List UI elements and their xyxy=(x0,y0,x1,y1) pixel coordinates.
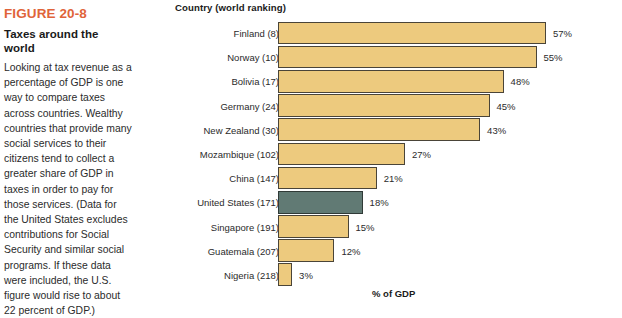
bar-row: Guatemala (207)12% xyxy=(140,239,622,263)
bar xyxy=(278,263,292,286)
x-axis-title: % of GDP xyxy=(372,288,415,299)
bar xyxy=(278,22,546,45)
bar xyxy=(278,167,377,190)
bar-category-label: Bolivia (17) xyxy=(231,76,279,87)
bar-category-label: China (147) xyxy=(229,173,279,184)
bar-row: Germany (24)45% xyxy=(140,94,622,118)
bar-category-label: Norway (10) xyxy=(227,52,279,63)
bar-value-label: 12% xyxy=(341,245,360,256)
bar-value-label: 55% xyxy=(544,52,563,63)
bar xyxy=(278,143,405,166)
bar-category-label: Singapore (191) xyxy=(211,221,279,232)
bar-row: Finland (8)57% xyxy=(140,21,622,45)
bar-row: Norway (10)55% xyxy=(140,45,622,69)
y-axis-title: Country (world ranking) xyxy=(175,2,286,13)
bar-row: Mozambique (102)27% xyxy=(140,142,622,166)
bar xyxy=(278,118,480,141)
bar-value-label: 45% xyxy=(497,100,516,111)
bar-category-label: Guatemala (207) xyxy=(208,245,279,256)
bar-category-label: Finland (8) xyxy=(234,28,279,39)
bar-category-label: United States (171) xyxy=(197,197,279,208)
bar-value-label: 43% xyxy=(487,124,506,135)
bar-value-label: 15% xyxy=(356,221,375,232)
bar xyxy=(278,70,504,93)
bar-chart: Country (world ranking) Finland (8)57%No… xyxy=(140,0,622,301)
figure-title: Taxes around the world xyxy=(4,27,132,55)
bar-category-label: Germany (24) xyxy=(220,100,279,111)
bar-value-label: 27% xyxy=(412,149,431,160)
bar xyxy=(278,239,334,262)
bar xyxy=(278,94,490,117)
bar xyxy=(278,191,363,214)
bar xyxy=(278,46,537,69)
bar-row: New Zealand (30)43% xyxy=(140,118,622,142)
figure-number: FIGURE 20-8 xyxy=(4,6,132,22)
bar xyxy=(278,215,349,238)
bar-category-label: Nigeria (218) xyxy=(224,269,279,280)
chart-plot-area: Finland (8)57%Norway (10)55%Bolivia (17)… xyxy=(140,21,622,289)
figure-caption-column: FIGURE 20-8 Taxes around the world Looki… xyxy=(0,0,140,301)
bar-row: Nigeria (218)3% xyxy=(140,263,622,287)
bar-value-label: 57% xyxy=(553,28,572,39)
bar-row: United States (171)18% xyxy=(140,190,622,214)
bar-value-label: 3% xyxy=(299,269,313,280)
bar-row: China (147)21% xyxy=(140,166,622,190)
bar-row: Singapore (191)15% xyxy=(140,215,622,239)
bar-value-label: 21% xyxy=(384,173,403,184)
bar-value-label: 48% xyxy=(511,76,530,87)
bar-category-label: Mozambique (102) xyxy=(200,149,279,160)
bar-row: Bolivia (17)48% xyxy=(140,69,622,93)
figure-caption-text: Looking at tax revenue as a percentage o… xyxy=(4,60,132,318)
bar-value-label: 18% xyxy=(370,197,389,208)
bar-category-label: New Zealand (30) xyxy=(203,124,279,135)
